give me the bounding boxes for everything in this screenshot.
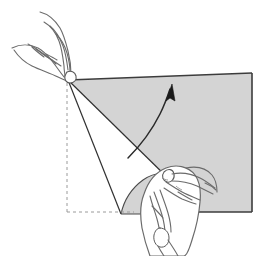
origami-figure: Origami fold instruction diagram Line dr…	[0, 0, 263, 256]
left-hand	[12, 12, 76, 83]
right-hand-thumb-tip	[163, 170, 175, 183]
left-hand-fingertip-pad	[65, 71, 76, 83]
figure-canvas	[0, 0, 263, 256]
left-hand-thumb-tip	[36, 49, 52, 60]
right-hand-lower-fingertip	[154, 228, 169, 247]
